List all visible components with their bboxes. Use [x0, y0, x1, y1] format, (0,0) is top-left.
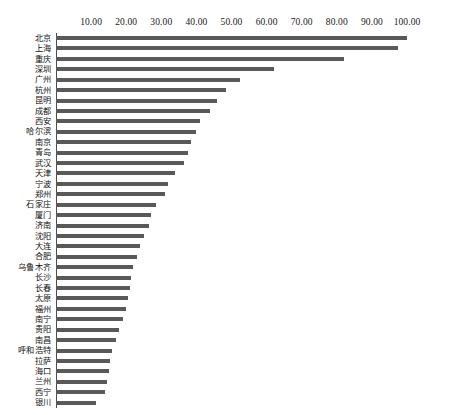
bar: [56, 46, 398, 50]
bar: [56, 36, 407, 40]
y-category-label: 重庆: [35, 55, 51, 64]
y-category-label: 银川: [35, 398, 51, 407]
y-category-label: 兰州: [35, 377, 51, 386]
bar: [56, 224, 149, 228]
bar-row: [56, 75, 452, 85]
y-category-label: 济南: [35, 221, 51, 230]
y-category-label: 广州: [35, 75, 51, 84]
bar: [56, 67, 274, 71]
bar-row: [56, 106, 452, 116]
bar: [56, 130, 196, 134]
y-category-label: 郑州: [35, 190, 51, 199]
bar: [56, 244, 140, 248]
y-category-label: 福州: [35, 305, 51, 314]
bar: [56, 203, 156, 207]
x-tick-label: 80.00: [326, 16, 348, 28]
bar: [56, 296, 128, 300]
x-axis-tick-labels: 10.0020.0030.0040.0050.0060.0070.0080.00…: [0, 16, 452, 30]
y-category-label: 拉萨: [35, 357, 51, 366]
bar: [56, 328, 119, 332]
bar-row: [56, 54, 452, 64]
bar-row: [56, 96, 452, 106]
plot-area: [56, 33, 452, 408]
bar: [56, 182, 168, 186]
y-category-label: 长沙: [35, 273, 51, 282]
bar: [56, 390, 105, 394]
bar: [56, 57, 344, 61]
bar-row: [56, 148, 452, 158]
bar: [56, 213, 151, 217]
y-category-label: 昆明: [35, 96, 51, 105]
bar: [56, 99, 217, 103]
y-category-label: 南宁: [35, 315, 51, 324]
bar: [56, 78, 240, 82]
bar: [56, 276, 131, 280]
x-tick-label: 70.00: [291, 16, 313, 28]
y-category-label: 太原: [35, 294, 51, 303]
bar: [56, 140, 191, 144]
bar-row: [56, 179, 452, 189]
bar: [56, 161, 184, 165]
bar-row: [56, 398, 452, 408]
bar: [56, 317, 123, 321]
y-category-label: 大连: [35, 242, 51, 251]
bar-row: [56, 252, 452, 262]
bar-row: [56, 168, 452, 178]
bar-row: [56, 137, 452, 147]
bar: [56, 234, 144, 238]
bar-row: [56, 273, 452, 283]
bar: [56, 338, 116, 342]
bar-row: [56, 127, 452, 137]
bar-row: [56, 64, 452, 74]
bar-row: [56, 210, 452, 220]
bar-row: [56, 346, 452, 356]
x-tick-label: 30.00: [150, 16, 172, 28]
bar-row: [56, 293, 452, 303]
bar-row: [56, 262, 452, 272]
bar: [56, 359, 110, 363]
y-category-label: 西安: [35, 117, 51, 126]
bar-row: [56, 387, 452, 397]
y-category-label: 天津: [35, 169, 51, 178]
y-category-label: 贵阳: [35, 325, 51, 334]
bar: [56, 286, 130, 290]
bar: [56, 109, 210, 113]
y-category-label: 上海: [35, 44, 51, 53]
bar-row: [56, 116, 452, 126]
y-category-label: 南京: [35, 138, 51, 147]
bar: [56, 151, 188, 155]
bar: [56, 349, 112, 353]
bar: [56, 401, 96, 405]
x-tick-label: 50.00: [221, 16, 243, 28]
bar: [56, 380, 107, 384]
y-category-label: 厦门: [35, 211, 51, 220]
y-category-label: 青岛: [35, 148, 51, 157]
bar-row: [56, 33, 452, 43]
y-category-label: 乌鲁木齐: [18, 263, 51, 272]
bar-row: [56, 366, 452, 376]
x-tick-label: 90.00: [361, 16, 383, 28]
y-category-label: 哈尔滨: [26, 127, 51, 136]
y-category-label: 北京: [35, 34, 51, 43]
bar: [56, 192, 165, 196]
y-category-label: 成都: [35, 107, 51, 116]
bar-row: [56, 221, 452, 231]
bar-row: [56, 43, 452, 53]
bar: [56, 307, 126, 311]
bar: [56, 369, 109, 373]
x-tick-label: 60.00: [256, 16, 278, 28]
bar-row: [56, 200, 452, 210]
bar-row: [56, 189, 452, 199]
y-category-label: 南昌: [35, 336, 51, 345]
x-tick-label: 10.00: [80, 16, 102, 28]
y-category-label: 深圳: [35, 65, 51, 74]
bar-row: [56, 241, 452, 251]
bar: [56, 171, 175, 175]
y-axis-category-labels: 北京上海重庆深圳广州杭州昆明成都西安哈尔滨南京青岛武汉天津宁波郑州石家庄厦门济南…: [0, 33, 54, 408]
bar-row: [56, 158, 452, 168]
bar: [56, 119, 200, 123]
x-tick-label: 20.00: [115, 16, 137, 28]
y-category-label: 杭州: [35, 86, 51, 95]
y-category-label: 武汉: [35, 159, 51, 168]
bar: [56, 255, 137, 259]
